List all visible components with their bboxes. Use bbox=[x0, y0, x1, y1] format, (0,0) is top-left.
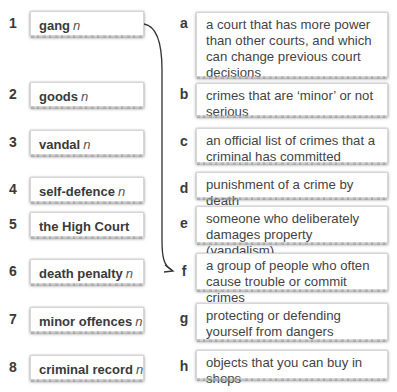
definition-text: an official list of crimes that a crimin… bbox=[206, 133, 378, 165]
term-number: 3 bbox=[6, 134, 20, 150]
term-word: self-defence bbox=[39, 184, 115, 199]
term-number: 5 bbox=[6, 216, 20, 232]
term-word: the High Court bbox=[39, 219, 129, 234]
term-word: death penalty bbox=[39, 266, 123, 281]
definition-letter: e bbox=[177, 215, 191, 231]
term-box-minor-offences[interactable]: minor offencesn bbox=[30, 307, 144, 333]
part-of-speech: n bbox=[136, 362, 143, 377]
definition-box-c[interactable]: an official list of crimes that a crimin… bbox=[196, 128, 388, 164]
term-box-vandal[interactable]: vandaln bbox=[30, 130, 144, 156]
definition-text: objects that you can buy in shops bbox=[206, 355, 378, 387]
term-word: criminal record bbox=[39, 362, 133, 377]
term-number: 1 bbox=[6, 15, 20, 31]
term-word: minor offences bbox=[39, 314, 132, 329]
definition-text: a group of people who often cause troubl… bbox=[206, 258, 378, 306]
part-of-speech: n bbox=[73, 18, 80, 33]
definition-letter: d bbox=[177, 180, 191, 196]
definition-letter: c bbox=[177, 133, 191, 149]
part-of-speech: n bbox=[118, 184, 125, 199]
definition-letter: f bbox=[177, 263, 191, 279]
term-word: goods bbox=[39, 89, 78, 104]
term-number: 2 bbox=[6, 86, 20, 102]
definition-text: protecting or defending yourself from da… bbox=[206, 308, 378, 340]
definition-letter: h bbox=[177, 358, 191, 374]
term-number: 4 bbox=[6, 181, 20, 197]
definition-text: a court that has more power than other c… bbox=[206, 17, 378, 81]
definition-box-e[interactable]: someone who deliberately damages propert… bbox=[196, 206, 388, 244]
term-box-death-penalty[interactable]: death penaltyn bbox=[30, 259, 144, 285]
term-box-the-high-court[interactable]: the High Court bbox=[30, 212, 144, 238]
term-box-self-defence[interactable]: self-defencen bbox=[30, 177, 144, 203]
part-of-speech: n bbox=[126, 266, 133, 281]
definition-box-h[interactable]: objects that you can buy in shops bbox=[196, 350, 388, 380]
definition-box-b[interactable]: crimes that are ‘minor’ or not serious bbox=[196, 83, 388, 117]
part-of-speech: n bbox=[81, 89, 88, 104]
part-of-speech: n bbox=[83, 137, 90, 152]
term-word: vandal bbox=[39, 137, 80, 152]
definition-box-d[interactable]: punishment of a crime by death bbox=[196, 172, 388, 199]
definition-text: punishment of a crime by death bbox=[206, 177, 378, 209]
part-of-speech: n bbox=[135, 314, 142, 329]
definition-text: crimes that are ‘minor’ or not serious bbox=[206, 88, 378, 120]
definition-box-g[interactable]: protecting or defending yourself from da… bbox=[196, 303, 388, 341]
definition-box-a[interactable]: a court that has more power than other c… bbox=[196, 12, 388, 78]
definition-letter: a bbox=[177, 15, 191, 31]
term-box-goods[interactable]: goodsn bbox=[30, 82, 144, 108]
definition-text: someone who deliberately damages propert… bbox=[206, 211, 378, 259]
term-number: 6 bbox=[6, 263, 20, 279]
definition-box-f[interactable]: a group of people who often cause troubl… bbox=[196, 253, 388, 291]
term-box-gang[interactable]: gangn bbox=[30, 11, 144, 37]
definition-letter: b bbox=[177, 86, 191, 102]
definition-letter: g bbox=[177, 310, 191, 326]
term-word: gang bbox=[39, 18, 70, 33]
term-number: 8 bbox=[6, 359, 20, 375]
term-box-criminal-record[interactable]: criminal recordn bbox=[30, 355, 144, 381]
term-number: 7 bbox=[6, 311, 20, 327]
